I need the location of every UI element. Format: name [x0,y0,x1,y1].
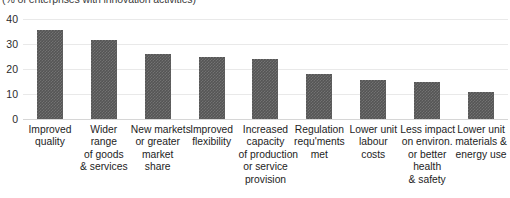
x-axis-category-label-line: & safety [400,174,454,186]
x-axis-category-label-line: Wider [77,124,131,136]
x-axis-category-label-line: Improved [23,124,77,136]
x-axis-category-label-line: met [292,149,346,161]
bar-slot [239,19,293,119]
x-axis-category-label: Less impacton environ.or betterhealth& s… [400,124,454,186]
bar-slot [454,19,508,119]
bar[interactable] [360,80,386,119]
x-axis-category-labels: ImprovedqualityWiderrangeof goods& servi… [23,124,508,198]
bar-series [23,19,508,119]
x-axis-category-label: Widerrangeof goods& services [77,124,131,174]
x-axis-category-label-line: quality [23,136,77,148]
x-axis-category-label-line: range [77,136,131,148]
x-axis-category-label-line: materials & [454,136,508,148]
x-axis-category-label-line: of production [239,149,293,161]
bar-slot [292,19,346,119]
x-axis-category-label-line: on environ. [400,136,454,148]
x-axis-category-label: Improvedquality [23,124,77,149]
bar-slot [185,19,239,119]
x-axis-category-label-line: provision [239,174,293,186]
x-axis-category-label-line: energy use [454,149,508,161]
x-axis-category-label-line: Lower unit [454,124,508,136]
x-axis-category-label-line: of goods [77,149,131,161]
x-axis-category-label: Improvedflexibility [185,124,239,149]
x-axis-category-label-line: or better [400,149,454,161]
x-axis-category-label: New marketsor greatermarketshare [131,124,185,174]
x-axis-category-label-line: flexibility [185,136,239,148]
x-axis-category-label-line: health [400,161,454,173]
bar[interactable] [414,82,440,120]
x-axis-category-label-line: costs [346,149,400,161]
x-axis-category-label-line: New markets [131,124,185,136]
x-axis-category-label: Lower unitmaterials &energy use [454,124,508,161]
chart-subtitle: (% of enterprises with innovation activi… [2,0,196,5]
x-axis-category-label-line: Regulation [292,124,346,136]
x-axis-category-label-line: or greater [131,136,185,148]
bar[interactable] [37,30,63,119]
bar[interactable] [145,54,171,119]
gridline-0 [23,119,508,120]
y-axis-tick-label: 0 [12,113,18,125]
bar-slot [77,19,131,119]
bar[interactable] [468,92,494,120]
x-axis-category-label-line: Increased [239,124,293,136]
y-axis-tick-label: 40 [6,13,18,25]
x-axis-category-label-line: requ'ments [292,136,346,148]
x-axis-category-label-line: Lower unit [346,124,400,136]
bar[interactable] [252,59,278,119]
y-axis-tick-label: 30 [6,38,18,50]
x-axis-category-label: Regulationrequ'mentsmet [292,124,346,161]
bar-slot [131,19,185,119]
x-axis-category-label-line: Less impact [400,124,454,136]
x-axis-category-label: Increasedcapacityof productionor service… [239,124,293,186]
x-axis-category-label-line: capacity [239,136,293,148]
x-axis-category-label-line: labour [346,136,400,148]
bar[interactable] [91,40,117,119]
bar-chart: (% of enterprises with innovation activi… [0,0,510,198]
x-axis-category-label-line: or service [239,161,293,173]
x-axis-category-label: Lower unitlabourcosts [346,124,400,161]
y-axis-tick-label: 20 [6,63,18,75]
bar[interactable] [199,57,225,120]
x-axis-category-label-line: share [131,161,185,173]
bar[interactable] [306,74,332,119]
y-axis-tick-label: 10 [6,88,18,100]
bar-slot [400,19,454,119]
plot-area: 010203040 [23,19,508,119]
bar-slot [346,19,400,119]
x-axis-category-label-line: Improved [185,124,239,136]
x-axis-category-label-line: & services [77,161,131,173]
x-axis-category-label-line: market [131,149,185,161]
bar-slot [23,19,77,119]
